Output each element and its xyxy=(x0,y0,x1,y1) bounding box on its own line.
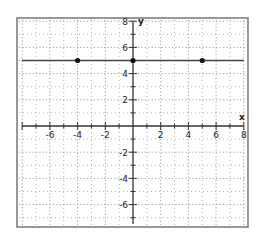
y-tick-label: -6 xyxy=(119,200,128,210)
x-tick-label: 6 xyxy=(213,130,219,140)
data-point xyxy=(75,58,80,63)
y-tick-label: 8 xyxy=(122,17,128,27)
y-tick-label: 6 xyxy=(122,43,128,53)
y-axis-label: y xyxy=(138,16,144,26)
x-tick-label: -4 xyxy=(73,130,82,140)
x-tick-label: 2 xyxy=(158,130,164,140)
x-tick-label: -6 xyxy=(45,130,54,140)
x-tick-label: 4 xyxy=(186,130,192,140)
x-tick-label: 8 xyxy=(241,130,247,140)
y-tick-label: 4 xyxy=(122,69,128,79)
x-tick-label: -2 xyxy=(101,130,110,140)
y-tick-label: -2 xyxy=(119,148,128,158)
coordinate-plane: -6-4-224688642-2-4-6 x y xyxy=(0,0,256,239)
data-point xyxy=(130,58,135,63)
y-tick-label: 2 xyxy=(122,95,128,105)
y-tick-label: -4 xyxy=(119,174,128,184)
data-point xyxy=(200,58,205,63)
x-axis-label: x xyxy=(239,112,245,122)
